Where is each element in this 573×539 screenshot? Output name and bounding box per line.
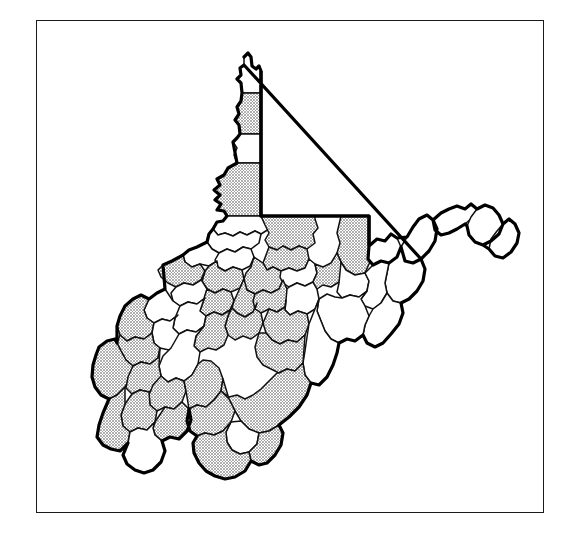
county-marshall[interactable] — [214, 163, 261, 216]
figure-root — [0, 0, 573, 539]
west-virginia-county-map[interactable] — [37, 21, 542, 511]
county-layer — [92, 53, 519, 479]
county-monongalia[interactable] — [261, 216, 318, 250]
county-marion[interactable] — [263, 246, 309, 271]
map-frame-border — [36, 20, 544, 513]
